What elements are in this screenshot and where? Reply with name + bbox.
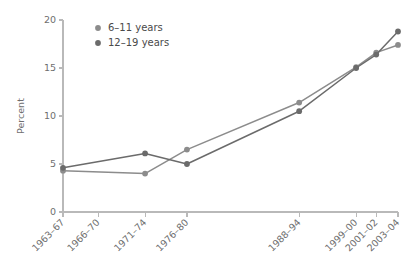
data-point bbox=[184, 161, 190, 167]
y-axis-title: Percent bbox=[15, 98, 26, 134]
y-tick-label: 15 bbox=[44, 62, 56, 73]
legend-label: 6–11 years bbox=[108, 22, 163, 33]
x-tick-label: 1971–74 bbox=[112, 217, 149, 254]
data-point bbox=[395, 29, 401, 35]
data-point bbox=[353, 65, 359, 71]
chart-container: 051015201963–671966–701971–741976–801988… bbox=[0, 0, 414, 270]
line-chart: 051015201963–671966–701971–741976–801988… bbox=[0, 0, 414, 270]
y-tick-label: 5 bbox=[50, 158, 56, 169]
y-tick-label: 20 bbox=[44, 14, 56, 25]
y-tick-label: 10 bbox=[44, 110, 56, 121]
x-tick-label: 1976–80 bbox=[154, 217, 191, 254]
x-tick-label: 1988–94 bbox=[266, 217, 303, 254]
data-point bbox=[296, 108, 302, 114]
series-line-1 bbox=[63, 32, 398, 168]
data-point bbox=[184, 147, 190, 153]
legend-marker bbox=[95, 40, 101, 46]
series-line-0 bbox=[63, 45, 398, 174]
chart-legend: 6–11 years12–19 years bbox=[95, 22, 169, 48]
data-point bbox=[395, 42, 401, 48]
data-point bbox=[296, 100, 302, 106]
x-tick-label: 1966–70 bbox=[65, 217, 102, 254]
data-point bbox=[373, 52, 379, 58]
legend-marker bbox=[95, 25, 101, 31]
axes: 051015201963–671966–701971–741976–801988… bbox=[15, 14, 401, 253]
data-series bbox=[60, 29, 401, 177]
data-point bbox=[60, 165, 66, 171]
legend-label: 12–19 years bbox=[108, 37, 169, 48]
x-tick-label: 1963–67 bbox=[30, 217, 67, 254]
data-point bbox=[142, 151, 148, 157]
data-point bbox=[142, 171, 148, 177]
y-tick-label: 0 bbox=[50, 206, 56, 217]
